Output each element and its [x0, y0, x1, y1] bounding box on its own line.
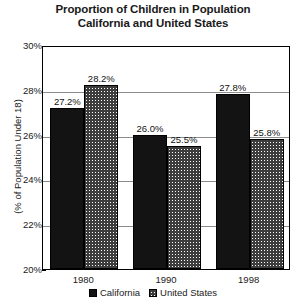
x-tick-label-1990: 1990	[125, 274, 208, 285]
chart-title: Proportion of Children in Population Cal…	[0, 2, 306, 30]
y-tick-label: 26%	[8, 131, 42, 141]
legend-swatch-icon	[149, 289, 157, 297]
bar-1990-united-states	[167, 146, 201, 269]
legend-label: United States	[160, 287, 217, 298]
legend-label: California	[100, 287, 140, 298]
y-axis-ticks: 30%28%26%24%22%20%	[0, 46, 42, 270]
y-tick-label: 20%	[8, 265, 42, 275]
chart-title-line-1: Proportion of Children in Population	[0, 2, 306, 16]
bar-1998-california	[216, 94, 250, 269]
plot-area: 27.2%28.2%26.0%25.5%27.8%25.8%	[42, 46, 290, 270]
y-tick-label: 28%	[8, 86, 42, 96]
bar-1990-california	[133, 135, 167, 269]
x-axis-labels: 198019901998	[42, 274, 290, 288]
legend-swatch-icon	[89, 289, 97, 297]
y-tick-mark	[42, 270, 46, 271]
legend-item-california[interactable]: California	[89, 287, 140, 298]
bar-1998-united-states	[250, 139, 284, 269]
legend-item-united-states[interactable]: United States	[149, 287, 217, 298]
y-tick-label: 24%	[8, 175, 42, 185]
chart-legend: CaliforniaUnited States	[0, 287, 306, 298]
value-label: 28.2%	[76, 74, 126, 84]
value-label: 25.8%	[242, 128, 292, 138]
value-label: 27.8%	[208, 83, 258, 93]
value-label: 25.5%	[159, 135, 209, 145]
bar-1980-united-states	[84, 85, 118, 269]
bar-1980-california	[50, 108, 84, 269]
x-tick-label-1998: 1998	[207, 274, 290, 285]
bar-chart: Proportion of Children in Population Cal…	[0, 0, 306, 300]
x-tick-label-1980: 1980	[42, 274, 125, 285]
value-label: 26.0%	[125, 124, 175, 134]
y-tick-label: 30%	[8, 41, 42, 51]
chart-title-line-2: California and United States	[0, 16, 306, 30]
y-tick-label: 22%	[8, 220, 42, 230]
